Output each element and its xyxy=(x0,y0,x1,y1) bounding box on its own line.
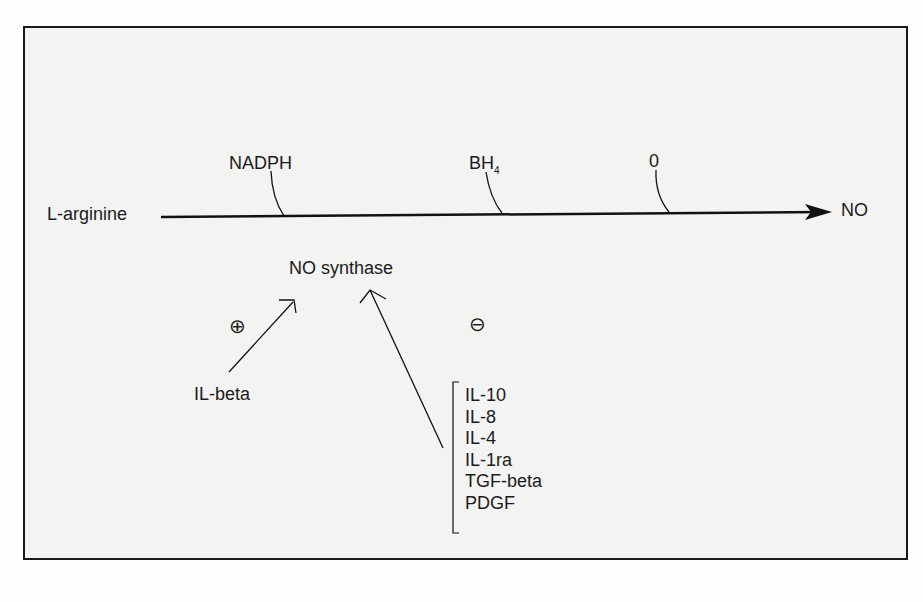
inhibitory-factor: IL-8 xyxy=(465,407,542,429)
stimulation-arrow xyxy=(229,302,293,372)
inhibitory-factor: IL-10 xyxy=(465,385,542,407)
inhibitory-factor-list: IL-10 IL-8 IL-4 IL-1ra TGF-beta PDGF xyxy=(465,385,542,514)
inhibitory-factor: TGF-beta xyxy=(465,471,542,493)
stimulation-arrowhead-icon xyxy=(279,300,296,313)
inhibitory-factor: IL-1ra xyxy=(465,450,542,472)
product-label: NO xyxy=(841,201,868,219)
substrate-label: L-arginine xyxy=(47,205,127,223)
stimulatory-factor: IL-beta xyxy=(194,385,250,403)
o2-connector xyxy=(656,170,669,212)
inhibition-arrow xyxy=(370,290,443,448)
enzyme-label: NO synthase xyxy=(289,259,393,277)
nadph-connector xyxy=(271,171,284,216)
cofactor-oxygen: 0 xyxy=(649,152,659,170)
pathway-lines xyxy=(0,0,923,602)
inhibitory-factor: PDGF xyxy=(465,493,542,515)
cofactor-nadph: NADPH xyxy=(229,154,292,172)
cofactor-bh4: BH4 xyxy=(469,154,500,176)
reaction-arrow-line xyxy=(161,212,823,217)
bh4-connector xyxy=(486,172,502,213)
factor-bracket xyxy=(453,382,459,533)
inhibitory-symbol-icon: ⊖ xyxy=(469,314,486,334)
inhibitory-factor: IL-4 xyxy=(465,428,542,450)
stimulatory-symbol-icon: ⊕ xyxy=(229,316,246,336)
